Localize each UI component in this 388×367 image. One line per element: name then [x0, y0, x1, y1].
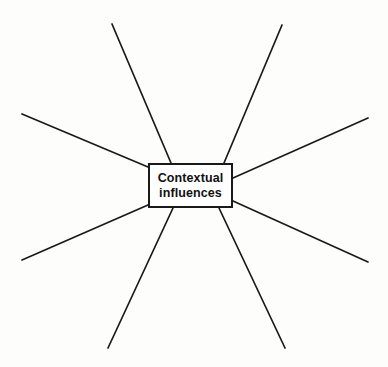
spoke-bottom-left — [108, 208, 173, 348]
central-node-label-line-1: Contextual — [158, 171, 224, 186]
spoke-lower-left — [22, 205, 148, 260]
central-node-contextual-influences[interactable]: Contextual influences — [148, 163, 233, 208]
spoke-bottom-right — [219, 208, 285, 348]
spoke-upper-right — [233, 118, 368, 178]
spoke-top-right — [224, 25, 282, 163]
diagram-canvas: Contextual influences — [0, 0, 388, 367]
spoke-lower-right — [233, 201, 368, 262]
spoke-top-left — [112, 24, 171, 163]
central-node-label-line-2: influences — [159, 186, 222, 201]
spoke-upper-left — [22, 114, 148, 167]
